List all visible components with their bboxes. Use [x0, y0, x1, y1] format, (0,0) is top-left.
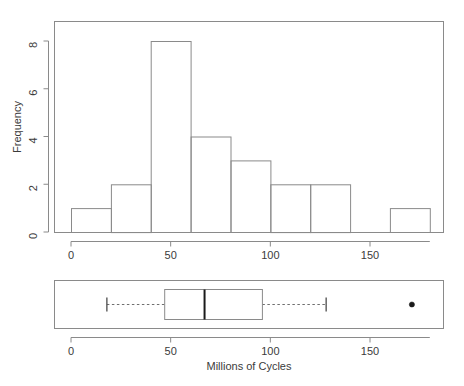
histogram-bar	[231, 161, 271, 233]
histogram-bar	[390, 209, 430, 233]
boxplot-x-tick-label: 50	[165, 345, 177, 357]
histogram-x-tick-label: 100	[261, 249, 279, 261]
histogram-y-tick-label: 0	[27, 233, 39, 239]
statistics-figure: 02468 050100150 Frequency 050100150 Mill…	[0, 0, 464, 386]
histogram-y-tick-label: 8	[27, 42, 39, 48]
boxplot-x-tick-label: 100	[261, 345, 279, 357]
boxplot-x-axis-title: Millions of Cycles	[207, 360, 292, 372]
boxplot-box	[165, 290, 263, 320]
histogram-y-tick-label: 2	[27, 185, 39, 191]
histogram-plot-frame	[55, 22, 444, 233]
histogram-bar	[271, 185, 311, 233]
histogram-y-tick-label: 4	[27, 137, 39, 143]
boxplot-x-axis: 050100150	[68, 338, 430, 357]
histogram-bars	[72, 42, 431, 233]
boxplot-x-tick-label: 150	[361, 345, 379, 357]
histogram-y-tick-label: 6	[27, 90, 39, 96]
histogram-y-axis: 02468	[27, 41, 49, 239]
histogram-panel: 02468 050100150 Frequency	[11, 22, 444, 261]
histogram-bar	[72, 209, 112, 233]
histogram-bar	[111, 185, 151, 233]
histogram-x-tick-label: 150	[361, 249, 379, 261]
histogram-y-axis-title: Frequency	[11, 101, 23, 153]
histogram-x-axis: 050100150	[68, 242, 430, 261]
histogram-bar	[191, 137, 231, 233]
figure-canvas: 02468 050100150 Frequency 050100150 Mill…	[0, 0, 464, 386]
boxplot-outlier-point	[409, 302, 414, 307]
boxplot-panel: 050100150 Millions of Cycles	[55, 281, 444, 373]
histogram-bar	[311, 185, 351, 233]
histogram-x-tick-label: 0	[68, 249, 74, 261]
histogram-x-tick-label: 50	[165, 249, 177, 261]
histogram-bar	[151, 42, 191, 233]
boxplot-x-tick-label: 0	[68, 345, 74, 357]
boxplot-glyphs	[107, 290, 415, 320]
